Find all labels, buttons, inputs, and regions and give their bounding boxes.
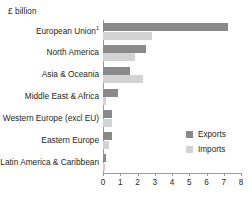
legend-swatch-exports-icon	[186, 131, 193, 138]
category-label: North America	[46, 47, 99, 57]
legend-item-imports: Imports	[186, 143, 226, 155]
category-label-footnote: 1	[96, 25, 99, 31]
legend-label-imports: Imports	[198, 145, 225, 154]
legend-item-exports: Exports	[186, 128, 226, 140]
tick-label: 7	[221, 178, 226, 187]
tick-mark	[138, 173, 139, 176]
tick-label: 3	[152, 178, 157, 187]
category-label: Eastern Europe	[41, 135, 99, 145]
tick-mark	[155, 173, 156, 176]
tick-mark	[172, 173, 173, 176]
category-label: Western Europe (excl EU)	[3, 113, 99, 123]
tick-label: 2	[135, 178, 140, 187]
category-label: Latin America & Caribbean	[0, 157, 99, 167]
legend-swatch-imports-icon	[186, 146, 193, 153]
legend-label-exports: Exports	[198, 130, 226, 139]
tick-mark	[189, 173, 190, 176]
chart-unit-label: £ billion	[8, 7, 37, 16]
tick-mark	[207, 173, 208, 176]
category-label: Asia & Oceania	[42, 69, 99, 79]
tick-label: 8	[239, 178, 244, 187]
tick-mark	[120, 173, 121, 176]
tick-mark	[241, 173, 242, 176]
value-axis-ticks: 012345678	[0, 173, 252, 193]
tick-label: 5	[187, 178, 192, 187]
tick-label: 0	[101, 178, 106, 187]
tick-label: 1	[118, 178, 123, 187]
category-label: European Union1	[36, 26, 99, 36]
bar-chart-figure: £ billion European Union1North AmericaAs…	[0, 0, 252, 200]
tick-mark	[224, 173, 225, 176]
chart-legend: Exports Imports	[186, 128, 226, 158]
tick-label: 4	[170, 178, 175, 187]
category-label: Middle East & Africa	[25, 91, 99, 101]
tick-mark	[103, 173, 104, 176]
tick-label: 6	[204, 178, 209, 187]
